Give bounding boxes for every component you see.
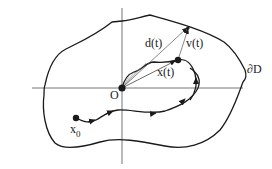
start-point-x0 <box>73 115 79 121</box>
label-velocity: v(t) <box>186 36 203 50</box>
label-boundary: ∂D <box>247 62 262 76</box>
boundary-point <box>186 26 189 29</box>
diagram-svg: O x(t) d(t) v(t) ∂D x 0 <box>0 0 272 169</box>
label-distance: d(t) <box>145 36 162 50</box>
label-start-subscript: 0 <box>76 129 81 139</box>
label-origin: O <box>110 88 119 102</box>
trajectory-arrow-2 <box>106 111 113 114</box>
trajectory-right-loop <box>178 60 196 100</box>
label-position: x(t) <box>157 65 174 79</box>
point-x-t <box>175 57 181 63</box>
trajectory-lower <box>76 68 199 122</box>
origin-point <box>118 84 125 91</box>
diagram-canvas: O x(t) d(t) v(t) ∂D x 0 <box>0 0 272 169</box>
trajectory-arrow-3 <box>150 113 156 114</box>
